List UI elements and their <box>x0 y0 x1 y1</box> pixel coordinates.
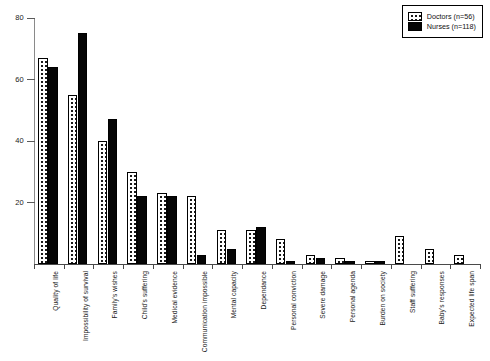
x-axis-category-label: Baby's responses <box>438 271 445 324</box>
bar-doctors <box>276 239 286 264</box>
bar-doctors <box>365 261 375 264</box>
x-axis-category-label: Personal conviction <box>290 271 297 330</box>
bar-doctors <box>425 249 435 264</box>
legend-swatch-doctors <box>408 12 422 21</box>
bar-doctors <box>157 193 167 264</box>
legend-label-nurses: Nurses (n=118) <box>427 22 476 31</box>
x-axis-tick <box>480 264 481 269</box>
legend-swatch-nurses <box>408 22 422 31</box>
bar-nurses <box>345 261 355 264</box>
x-axis-tick <box>302 264 303 269</box>
bar-chart: 020406080 Quality of lifeImpossibility o… <box>0 0 490 361</box>
x-axis-tick <box>212 264 213 269</box>
x-axis-tick <box>272 264 273 269</box>
x-axis-tick <box>331 264 332 269</box>
x-axis-category-label: Communication impossible <box>201 271 208 352</box>
y-axis-tick-label: 80 <box>0 13 24 22</box>
x-axis-category-label: Personal agenda <box>349 271 356 322</box>
x-axis-tick <box>93 264 94 269</box>
x-axis-category-label: Severe damage <box>319 271 326 319</box>
bar-doctors <box>98 141 108 264</box>
x-axis-category-label: Quality of life <box>52 271 59 311</box>
bar-doctors <box>217 230 227 264</box>
x-axis-category-label: Mental capacity <box>230 271 237 318</box>
x-axis-line <box>34 264 480 265</box>
bar-doctors <box>127 172 137 264</box>
bar-doctors <box>395 236 405 264</box>
bar-nurses <box>137 196 147 264</box>
bar-doctors <box>38 58 48 264</box>
y-axis-tick-label: 20 <box>0 198 24 207</box>
bar-doctors <box>246 230 256 264</box>
x-axis-category-label: Dependance <box>260 271 267 309</box>
bar-nurses <box>375 261 385 264</box>
bar-nurses <box>78 33 88 264</box>
legend-label-doctors: Doctors (n=56) <box>427 12 475 21</box>
y-axis-tick <box>27 202 35 203</box>
x-axis-tick <box>153 264 154 269</box>
x-axis-tick <box>64 264 65 269</box>
x-axis-category-label: Medical evidence <box>171 271 178 324</box>
y-axis-tick-label: 40 <box>0 136 24 145</box>
bar-nurses <box>197 255 207 264</box>
x-axis-tick <box>421 264 422 269</box>
x-axis-tick <box>242 264 243 269</box>
bar-doctors <box>335 258 345 264</box>
y-axis-tick-label: 60 <box>0 75 24 84</box>
bar-doctors <box>306 255 316 264</box>
x-axis-tick <box>450 264 451 269</box>
bar-nurses <box>227 249 237 264</box>
x-axis-category-label: Burden on society <box>379 271 386 325</box>
x-axis-category-label: Expected life span <box>468 271 475 327</box>
legend-entry-doctors: Doctors (n=56) <box>408 12 476 21</box>
chart-legend: Doctors (n=56) Nurses (n=118) <box>402 5 483 38</box>
bar-doctors <box>68 95 78 264</box>
x-axis-category-label: Impossibility of survival <box>82 271 89 341</box>
bar-nurses <box>286 261 296 264</box>
x-axis-tick <box>34 264 35 269</box>
bar-doctors <box>187 196 197 264</box>
legend-entry-nurses: Nurses (n=118) <box>408 22 476 31</box>
x-axis-category-label: Staff suffering <box>409 271 416 313</box>
bar-nurses <box>48 67 58 264</box>
x-axis-tick <box>183 264 184 269</box>
bar-doctors <box>454 255 464 264</box>
x-axis-category-label: Family's wishes <box>111 271 118 318</box>
x-axis-category-label: Child's suffering <box>141 271 148 319</box>
x-axis-tick <box>391 264 392 269</box>
x-axis-tick <box>361 264 362 269</box>
bar-nurses <box>256 227 266 264</box>
y-axis-tick <box>27 141 35 142</box>
x-axis-tick <box>123 264 124 269</box>
bar-nurses <box>316 258 326 264</box>
y-axis-tick <box>27 79 35 80</box>
bar-nurses <box>167 196 177 264</box>
bar-nurses <box>108 119 118 264</box>
y-axis-tick <box>27 18 35 19</box>
